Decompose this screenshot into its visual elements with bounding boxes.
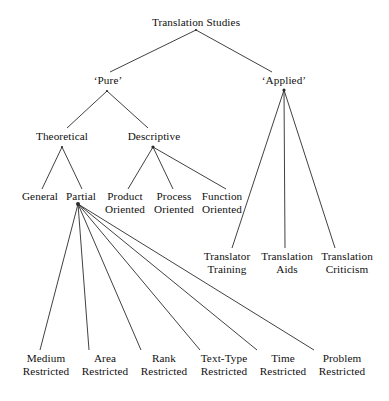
edge-pure-to-descriptive	[107, 91, 148, 128]
node-function-oriented-line2: Oriented	[202, 203, 242, 215]
node-translation-aids-line1: Translation	[261, 250, 313, 262]
node-problem-restricted-line1: Problem	[323, 352, 362, 364]
joint-partial	[76, 202, 80, 206]
joint-root	[195, 29, 197, 31]
edge-partial-to-texttype-restricted	[78, 204, 200, 350]
edge-theoretical-to-partial	[62, 147, 82, 189]
joint-applied	[282, 88, 285, 91]
node-theoretical: Theoretical	[36, 130, 88, 142]
edge-applied-to-translation-aids	[284, 90, 285, 248]
node-problem-restricted-line2: Restricted	[319, 365, 366, 377]
node-time-restricted-line1: Time	[271, 352, 295, 364]
node-function-oriented-line1: Function	[202, 190, 243, 202]
node-translator-training-line1: Translator	[204, 250, 251, 262]
edge-partial-to-time-restricted	[78, 204, 257, 350]
node-descriptive: Descriptive	[128, 130, 181, 142]
joint-descriptive	[151, 145, 154, 148]
joint-theoretical	[61, 146, 63, 148]
node-process-oriented-line2: Oriented	[154, 203, 194, 215]
edge-root-to-applied	[196, 30, 272, 72]
node-label-group: Translation Studies ‘Pure’ ‘Applied’ The…	[22, 16, 373, 377]
node-pure: ‘Pure’	[94, 74, 123, 86]
node-area-restricted-line1: Area	[94, 352, 116, 364]
node-applied: ‘Applied’	[262, 74, 306, 86]
node-time-restricted-line2: Restricted	[260, 365, 307, 377]
node-area-restricted-line2: Restricted	[82, 365, 129, 377]
edge-descriptive-to-function-oriented	[153, 147, 226, 189]
edge-partial-to-problem-restricted	[78, 204, 314, 350]
translation-studies-diagram: Translation Studies ‘Pure’ ‘Applied’ The…	[0, 0, 389, 401]
node-medium-restricted-line1: Medium	[27, 352, 66, 364]
edge-theoretical-to-general	[42, 147, 62, 189]
node-translator-training-line2: Training	[208, 263, 247, 275]
node-translation-criticism-line1: Translation	[321, 250, 373, 262]
node-texttype-restricted-line2: Restricted	[201, 365, 248, 377]
edge-descriptive-to-process-oriented	[153, 147, 173, 189]
node-product-oriented-line2: Oriented	[105, 203, 145, 215]
edge-descriptive-to-product-oriented	[128, 147, 153, 189]
node-medium-restricted-line2: Restricted	[23, 365, 70, 377]
node-texttype-restricted-line1: Text-Type	[201, 352, 248, 364]
edge-root-to-pure	[110, 30, 196, 72]
node-rank-restricted-line1: Rank	[152, 352, 176, 364]
node-translation-aids-line2: Aids	[276, 263, 298, 275]
edge-pure-to-theoretical	[67, 91, 107, 128]
joint-pure	[106, 90, 108, 92]
edge-applied-to-translation-criticism	[284, 90, 335, 248]
tree-svg-canvas: Translation Studies ‘Pure’ ‘Applied’ The…	[0, 0, 389, 401]
node-partial: Partial	[66, 190, 96, 202]
node-general: General	[22, 190, 58, 202]
node-process-oriented-line1: Process	[157, 190, 192, 202]
edge-partial-to-medium-restricted	[40, 204, 78, 350]
node-product-oriented-line1: Product	[107, 190, 143, 202]
node-translation-studies: Translation Studies	[152, 16, 240, 28]
node-translation-criticism-line2: Criticism	[326, 263, 369, 275]
node-rank-restricted-line2: Restricted	[141, 365, 188, 377]
edge-applied-to-translator-training	[232, 90, 284, 248]
joint-group	[61, 29, 286, 206]
